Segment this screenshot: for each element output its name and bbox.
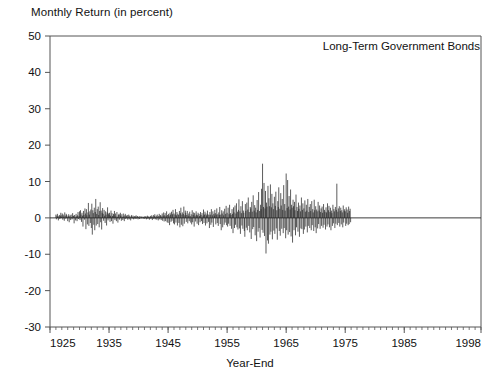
y-tick-label: 10 [28, 176, 41, 188]
y-tick-label: -30 [24, 321, 41, 333]
y-tick-label: 0 [35, 212, 41, 224]
y-tick-label: -20 [24, 285, 41, 297]
x-tick-label: 1965 [273, 337, 299, 349]
y-tick-label: 30 [28, 103, 41, 115]
axes-layer: 50403020100-10-20-3019251935194519551965… [24, 30, 481, 349]
y-tick-label: -10 [24, 248, 41, 260]
x-tick-label: 1998 [455, 337, 481, 349]
x-tick-label: 1925 [50, 337, 76, 349]
y-tick-label: 40 [28, 66, 41, 78]
y-tick-label: 20 [28, 139, 41, 151]
x-tick-label: 1935 [96, 337, 122, 349]
x-tick-label: 1975 [332, 337, 358, 349]
chart-figure: Monthly Return (in percent) Long-Term Go… [0, 0, 500, 391]
x-tick-label: 1945 [155, 337, 181, 349]
x-tick-label: 1955 [214, 337, 240, 349]
x-tick-label: 1985 [391, 337, 417, 349]
plot-area: 50403020100-10-20-3019251935194519551965… [0, 0, 500, 391]
y-tick-label: 50 [28, 30, 41, 42]
data-series-bars [50, 164, 481, 254]
